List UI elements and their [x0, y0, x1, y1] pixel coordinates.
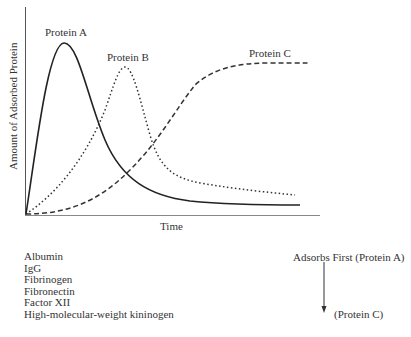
protein-item: Albumin — [24, 251, 174, 263]
curve-protein-b — [26, 67, 295, 214]
y-axis-title: Amount of Adsorbed Protein — [7, 42, 19, 170]
label-protein-a: Protein A — [45, 26, 87, 38]
protein-item: High-molecular-weight kininogen — [24, 309, 174, 321]
adsorbs-first-label: Adsorbs First (Protein A) — [293, 251, 405, 263]
adsorption-chart: Protein A Protein B Protein C Time Amoun… — [0, 0, 411, 240]
label-protein-b: Protein B — [107, 51, 149, 63]
protein-list: Albumin IgG Fibrinogen Fibronectin Facto… — [24, 251, 174, 321]
curve-protein-c — [26, 63, 308, 214]
x-axis-title: Time — [160, 220, 183, 232]
curve-protein-a — [26, 43, 300, 214]
label-protein-c: Protein C — [249, 47, 291, 59]
down-arrow-icon — [318, 262, 330, 314]
adsorbs-last-label: (Protein C) — [334, 308, 383, 320]
